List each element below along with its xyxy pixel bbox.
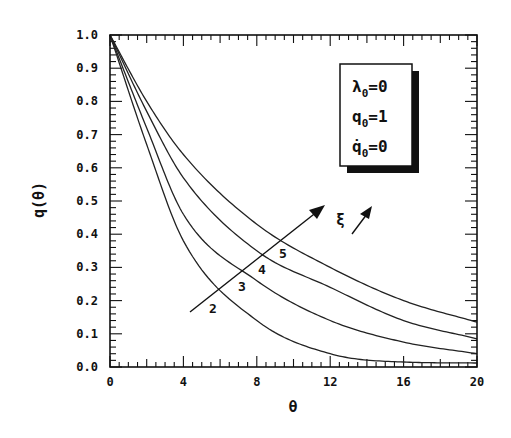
curve-label-3: 3 — [238, 279, 246, 294]
y-tick-label: 0.4 — [76, 227, 98, 241]
curve-label-5: 5 — [279, 246, 287, 261]
x-tick-label: 16 — [396, 375, 410, 389]
x-tick-label: 20 — [470, 375, 484, 389]
y-axis-label: q(θ) — [30, 182, 48, 218]
y-tick-label: 0.8 — [76, 94, 98, 108]
y-tick-label: 0.1 — [76, 327, 98, 341]
y-tick-label: 1.0 — [76, 28, 98, 42]
xi-increase-arrow-icon — [352, 206, 372, 234]
xi-arrow — [190, 205, 325, 312]
x-tick-label: 8 — [253, 375, 260, 389]
y-tick-label: 0.3 — [76, 260, 98, 274]
x-axis-label: θ — [288, 398, 297, 416]
curve-xi-4 — [110, 35, 477, 339]
y-tick-label: 0.9 — [76, 61, 98, 75]
plot-frame — [110, 35, 477, 367]
axis-ticks — [110, 35, 477, 367]
x-tick-label: 4 — [180, 375, 187, 389]
y-tick-label: 0.7 — [76, 128, 98, 142]
y-tick-label: 0.5 — [76, 194, 98, 208]
xi-label: ξ — [336, 211, 345, 229]
x-tick-label: 0 — [106, 375, 113, 389]
curve-xi-2 — [110, 35, 477, 363]
curve-xi-5 — [110, 35, 477, 322]
y-tick-label: 0.0 — [76, 360, 98, 374]
curve-label-4: 4 — [258, 262, 266, 277]
curve-xi-3 — [110, 35, 477, 354]
curve-label-2: 2 — [209, 301, 217, 316]
chart-figure: 0481216200.00.10.20.30.40.50.60.70.80.91… — [0, 0, 511, 438]
y-tick-label: 0.6 — [76, 161, 98, 175]
x-tick-label: 12 — [323, 375, 337, 389]
y-tick-label: 0.2 — [76, 294, 98, 308]
curves — [110, 35, 477, 363]
parameters-legend-box: λ0=0 q0=1 q̇0=0 — [340, 64, 419, 173]
